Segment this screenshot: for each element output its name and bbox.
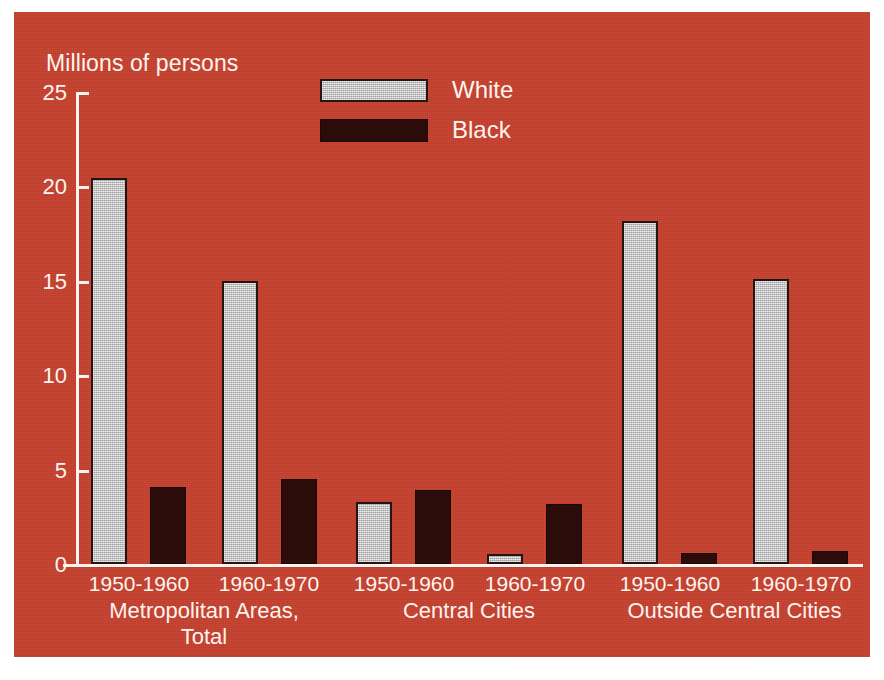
y-axis-title: Millions of persons [46, 50, 238, 77]
period-label-central-1960-1970: 1960-1970 [470, 572, 600, 596]
bar-black-central-1960-1970 [546, 504, 582, 564]
x-axis-line [63, 564, 863, 567]
bar-white-metro-1950-1960 [91, 178, 127, 564]
y-tick-label-15: 15 [23, 271, 67, 293]
bar-black-outside-1960-1970 [812, 551, 848, 564]
y-tick-label-20: 20 [23, 176, 67, 198]
y-tick-mark-25 [76, 92, 89, 95]
black-swatch-icon [320, 119, 428, 142]
bar-white-central-1950-1960 [356, 502, 392, 564]
legend-item-white: White [320, 70, 513, 110]
period-label-outside-1960-1970: 1960-1970 [736, 572, 866, 596]
group-label-metro-line1: Metropolitan Areas, [74, 598, 334, 624]
y-tick-label-10: 10 [23, 365, 67, 387]
legend-item-black: Black [320, 110, 513, 150]
legend-label-white: White [452, 78, 513, 102]
bar-white-metro-1960-1970 [222, 281, 258, 564]
chart-figure: Millions of persons White Black [0, 0, 884, 680]
y-tick-mark-5 [76, 470, 89, 473]
bar-black-central-1950-1960 [415, 490, 451, 564]
group-label-outside-central-cities: Outside Central Cities [597, 598, 870, 624]
chart-legend: White Black [320, 70, 513, 150]
y-tick-label-25: 25 [23, 82, 67, 104]
y-tick-mark-0 [76, 564, 89, 567]
group-label-metro-line2: Total [74, 624, 334, 650]
y-tick-label-0: 0 [23, 554, 67, 576]
chart-panel: Millions of persons White Black [14, 12, 870, 657]
period-label-metro-1950-1960: 1950-1960 [74, 572, 204, 596]
y-tick-mark-20 [76, 186, 89, 189]
y-tick-mark-10 [76, 375, 89, 378]
bar-black-metro-1960-1970 [281, 479, 317, 564]
bar-white-outside-1950-1960 [622, 221, 658, 564]
bar-white-central-1960-1970 [487, 554, 523, 564]
legend-label-black: Black [452, 118, 511, 142]
period-label-metro-1960-1970: 1960-1970 [204, 572, 334, 596]
group-label-central-cities: Central Cities [339, 598, 599, 624]
bar-black-metro-1950-1960 [150, 487, 186, 564]
period-label-central-1950-1960: 1950-1960 [339, 572, 469, 596]
y-tick-mark-15 [76, 281, 89, 284]
y-axis-line [76, 93, 79, 566]
white-swatch-icon [320, 79, 428, 102]
y-tick-label-5: 5 [23, 460, 67, 482]
bar-black-outside-1950-1960 [681, 553, 717, 564]
period-label-outside-1950-1960: 1950-1960 [605, 572, 735, 596]
bar-white-outside-1960-1970 [753, 279, 789, 564]
